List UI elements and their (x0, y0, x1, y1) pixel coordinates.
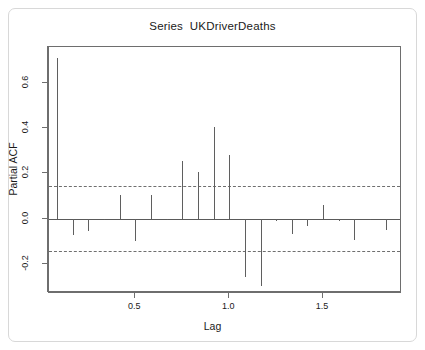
pacf-stem (73, 219, 74, 236)
pacf-stem (323, 205, 324, 219)
pacf-stem (214, 127, 215, 218)
pacf-stem (386, 219, 387, 230)
pacf-stem (57, 58, 58, 218)
pacf-stem (276, 219, 277, 222)
pacf-stem (261, 219, 262, 287)
pacf-stem (245, 219, 246, 278)
pacf-stem (182, 161, 183, 219)
pacf-stem (151, 195, 152, 219)
x-tick (322, 292, 323, 298)
y-axis-label-text: Partial ACF (7, 142, 19, 195)
page-title: Series UKDriverDeaths (0, 20, 425, 32)
y-tick-label-text: 0.2 (20, 166, 30, 179)
plot-panel (48, 46, 401, 292)
y-tick-label-text: 0.4 (20, 121, 30, 134)
confidence-band-lower (49, 251, 400, 252)
plot-area (49, 47, 400, 291)
y-tick-label-text: -0.2 (20, 255, 30, 271)
pacf-stem (120, 195, 121, 219)
x-axis (48, 292, 401, 299)
x-tick (228, 292, 229, 298)
x-tick (134, 292, 135, 298)
pacf-stem (104, 219, 105, 220)
pacf-stem (229, 155, 230, 218)
pacf-stem (88, 219, 89, 231)
pacf-stem (292, 219, 293, 235)
zero-baseline (49, 219, 400, 220)
y-axis (41, 46, 48, 292)
x-axis-line (48, 292, 401, 293)
pacf-stem (167, 219, 168, 221)
pacf-stem (307, 219, 308, 227)
pacf-stem (135, 219, 136, 242)
pacf-stem (370, 219, 371, 220)
pacf-figure: Series UKDriverDeaths Partial ACF Lag -0… (0, 0, 425, 350)
x-tick-label: 1.5 (316, 301, 329, 311)
y-tick-label-text: 0.6 (20, 76, 30, 89)
pacf-stem (339, 219, 340, 222)
y-tick-label-text: 0.0 (20, 211, 30, 224)
pacf-stem (198, 172, 199, 218)
pacf-stem (354, 219, 355, 240)
confidence-band-upper (49, 186, 400, 187)
x-tick-label: 0.5 (128, 301, 141, 311)
x-tick-label: 1.0 (222, 301, 235, 311)
x-axis-label: Lag (0, 320, 425, 332)
y-axis-label: Partial ACF (6, 46, 20, 292)
